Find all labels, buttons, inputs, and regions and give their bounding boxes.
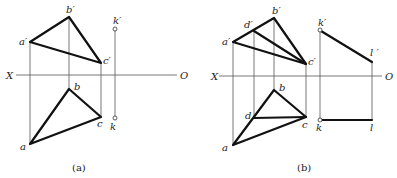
label-c-prime: c′ (308, 56, 317, 67)
label-b-prime: b′ (272, 5, 281, 16)
label-b-prime: b′ (66, 4, 75, 15)
label-k-prime: k′ (318, 17, 327, 28)
label-l: l (370, 122, 373, 133)
label-d-prime: d′ (244, 19, 253, 30)
line-k-prime-l-prime (321, 31, 372, 62)
label-l-prime: l ′ (370, 47, 379, 58)
caption-a: (a) (72, 162, 86, 173)
label-a: a (20, 141, 26, 152)
point-k-prime (113, 27, 117, 31)
label-c-prime: c′ (103, 55, 112, 66)
label-k-prime: k′ (113, 15, 122, 26)
label-c: c (302, 119, 308, 130)
axis-label-x: X (5, 70, 14, 81)
axis-label-o: O (180, 70, 188, 81)
axis-label-x: X (210, 71, 219, 82)
label-a: a (222, 142, 228, 153)
point-k (113, 116, 117, 120)
label-k: k (110, 121, 116, 132)
label-b: b (74, 81, 80, 92)
line-d-c (254, 117, 306, 118)
label-k: k (316, 122, 322, 133)
label-a-prime: a′ (222, 36, 231, 47)
figure-a: X O b′ a′ c′ k′ b c a k (a) (5, 4, 188, 173)
figure-b: X O b′ d′ a′ c′ k′ l ′ b d c a k l (b) (210, 5, 393, 173)
axis-label-o: O (385, 71, 393, 82)
caption-b: (b) (297, 162, 311, 173)
triangle-front-view (30, 17, 101, 63)
triangle-top-view (30, 89, 101, 144)
point-k-prime (318, 28, 322, 32)
projection-diagram: X O b′ a′ c′ k′ b c a k (a) X O (0, 0, 397, 178)
label-b: b (279, 82, 285, 93)
line-d-prime-c-prime (254, 31, 306, 64)
label-c: c (97, 118, 103, 129)
label-d: d (245, 110, 251, 121)
label-a-prime: a′ (19, 36, 28, 47)
